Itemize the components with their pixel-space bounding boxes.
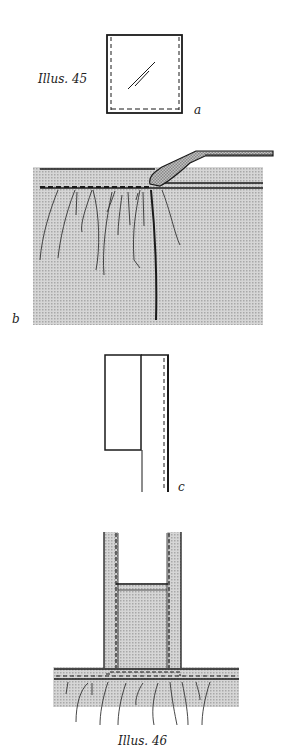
- illus-45-caption: Illus. 45: [38, 72, 87, 86]
- panel-a-label: a: [194, 103, 201, 117]
- illus-46-caption: Illus. 46: [118, 734, 167, 748]
- illustration-canvas: [0, 0, 283, 752]
- panel-c-band-outline: [105, 355, 169, 492]
- panel-a-square: [107, 35, 182, 113]
- illus-46-diagram: [53, 532, 239, 725]
- panel-c-label: c: [178, 480, 185, 494]
- panel-b-gathered-fabric: [33, 151, 273, 325]
- panel-b-label: b: [12, 312, 20, 326]
